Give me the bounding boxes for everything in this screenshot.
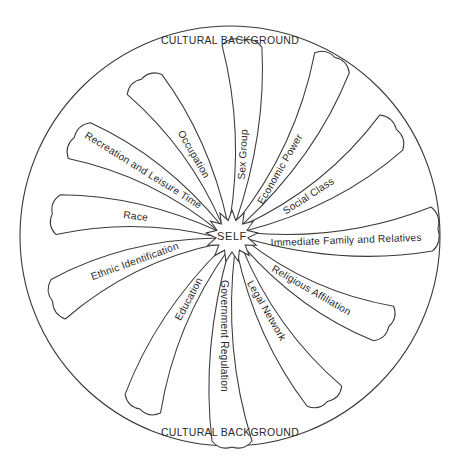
petal-label: Government Regulation <box>219 280 230 392</box>
cultural-background-top-label: CULTURAL BACKGROUND <box>161 34 299 46</box>
cultural-background-diagram: Sex GroupEconomic PowerSocial ClassImmed… <box>0 0 460 462</box>
diagram-canvas: Sex GroupEconomic PowerSocial ClassImmed… <box>0 0 460 462</box>
cultural-background-bottom-label: CULTURAL BACKGROUND <box>161 426 299 438</box>
self-label: SELF <box>217 230 247 242</box>
